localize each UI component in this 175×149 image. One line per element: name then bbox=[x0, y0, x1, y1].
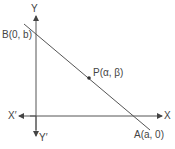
point-p-label: P(α, β) bbox=[93, 68, 123, 78]
x-prime-axis-label: X′ bbox=[8, 111, 17, 121]
y-prime-axis-label: Y′ bbox=[39, 133, 48, 143]
x-axis-label: X bbox=[164, 111, 171, 121]
point-b-label: B(0, b) bbox=[2, 30, 32, 40]
y-axis-label: Y bbox=[31, 4, 38, 14]
point-p-dot bbox=[87, 76, 91, 80]
line-ab bbox=[24, 24, 150, 130]
point-a-label: A(a, 0) bbox=[134, 130, 164, 140]
diagram-canvas bbox=[0, 0, 175, 149]
